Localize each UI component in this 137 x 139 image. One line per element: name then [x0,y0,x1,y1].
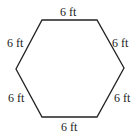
label-lower-right: 6 ft [114,92,130,104]
label-upper-left: 6 ft [7,37,23,49]
label-top: 6 ft [60,6,76,18]
label-upper-right: 6 ft [112,37,128,49]
hexagon-diagram: 6 ft 6 ft 6 ft 6 ft 6 ft 6 ft [0,0,137,139]
label-lower-left: 6 ft [8,92,24,104]
hexagon-shape [0,0,137,139]
label-bottom: 6 ft [61,121,77,133]
